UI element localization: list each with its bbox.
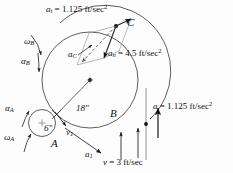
label-omega-b: ωB — [24, 37, 34, 47]
label-a-tangential: at = 1.125 ft/sec2 — [46, 4, 107, 15]
figure-drawing-canvas — [0, 0, 233, 173]
label-radius-18in: 18″ — [76, 104, 89, 113]
alpha-a-arrow — [22, 111, 29, 127]
label-point-a: A — [51, 138, 58, 149]
label-alpha-a: αA — [5, 104, 14, 114]
omega-a-arrow — [24, 134, 31, 152]
label-a-right: a = 1.125 ft/sec2 — [153, 101, 212, 111]
right-point-dot — [144, 122, 148, 126]
label-a-c: aC — [68, 50, 77, 60]
vector-v1 — [55, 112, 66, 126]
label-omega-a: ωA — [4, 133, 14, 143]
label-a-1: a1 — [85, 150, 93, 160]
label-radius-6in: 6″ — [44, 124, 52, 133]
alpha-b-arrow — [38, 53, 39, 72]
kinematics-figure: at = 1.125 ft/sec2 an = 4.5 ft/sec2 a = … — [0, 0, 233, 173]
label-point-b: B — [110, 108, 117, 119]
label-alpha-b: αB — [21, 57, 30, 67]
label-v-bottom: v = 3 ft/sec — [103, 158, 143, 167]
label-v-1: v1 — [66, 128, 73, 138]
label-point-c: C — [127, 17, 134, 28]
label-a-normal: an = 4.5 ft/sec2 — [108, 48, 162, 59]
